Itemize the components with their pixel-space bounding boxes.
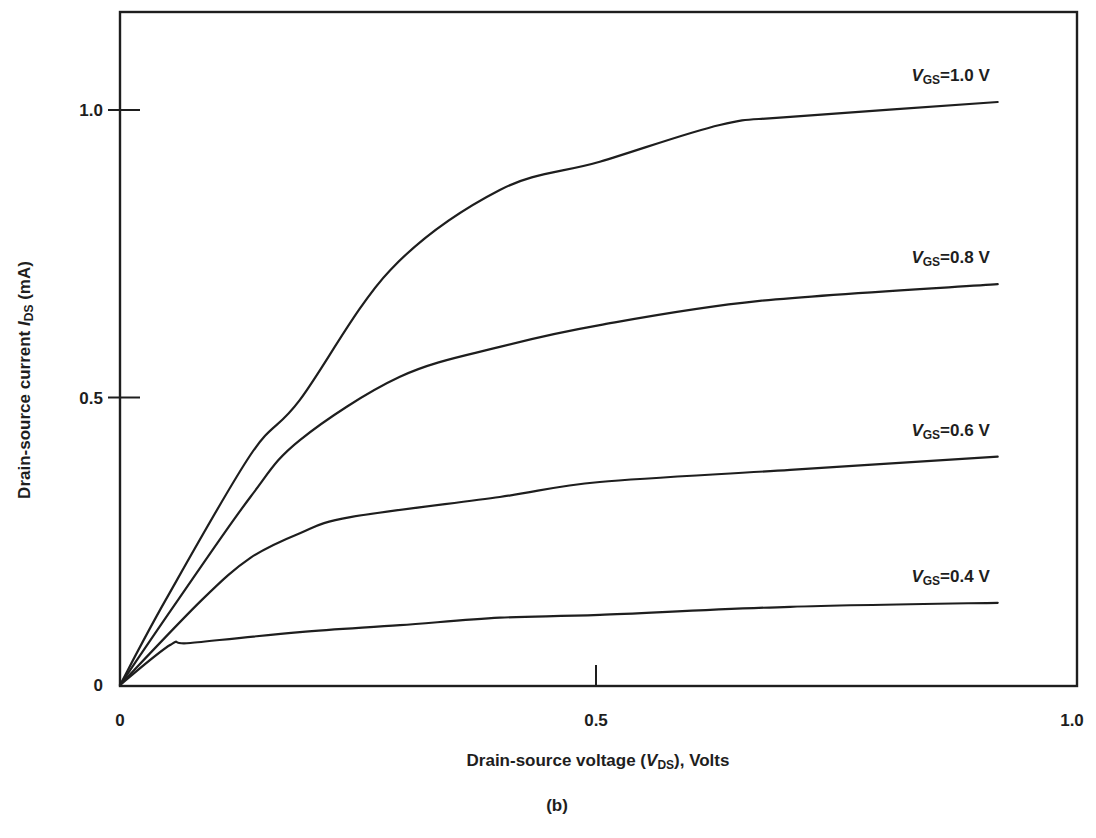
- series-labels: VGS=1.0 VVGS=0.8 VVGS=0.6 VVGS=0.4 V: [911, 66, 990, 588]
- y-axis-ticks: 00.51.0: [79, 101, 140, 695]
- y-tick-label: 1.0: [79, 101, 103, 120]
- iv-characteristics-chart: 00.51.0 00.51.0 VGS=1.0 VVGS=0.8 VVGS=0.…: [0, 0, 1096, 838]
- y-tick-label: 0: [94, 676, 103, 695]
- series-line-4: [120, 603, 998, 685]
- series-line-2: [120, 284, 998, 685]
- x-axis-title: Drain-source voltage (VDS), Volts: [467, 751, 730, 772]
- figure-caption: (b): [546, 796, 568, 815]
- x-axis-ticks: 00.51.0: [115, 665, 1084, 730]
- series-label: VGS=0.4 V: [911, 567, 990, 588]
- series-line-3: [120, 457, 998, 685]
- y-tick-label: 0.5: [79, 389, 103, 408]
- series-label: VGS=0.8 V: [911, 248, 990, 269]
- series-label: VGS=1.0 V: [911, 66, 990, 87]
- y-axis-title: Drain-source current IDS (mA): [15, 261, 36, 499]
- curves: [120, 102, 998, 685]
- x-tick-label: 0.5: [584, 711, 608, 730]
- series-line-1: [120, 102, 998, 685]
- series-label: VGS=0.6 V: [911, 421, 990, 442]
- x-tick-label: 1.0: [1060, 711, 1084, 730]
- x-tick-label: 0: [115, 711, 124, 730]
